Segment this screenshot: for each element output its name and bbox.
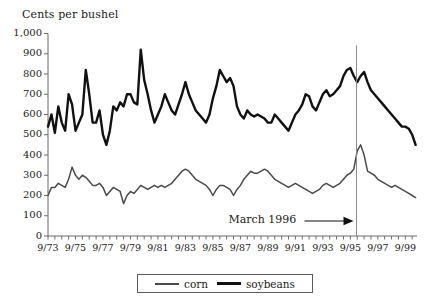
y-tick-label: 0	[36, 230, 42, 241]
y-tick-label: 500	[23, 128, 42, 139]
y-tick-label: 400	[23, 149, 42, 160]
legend-item-corn: corn	[155, 278, 208, 290]
y-tick-label: 100	[23, 209, 42, 220]
y-tick-label: 700	[23, 88, 42, 99]
y-tick-label: 1,000	[13, 27, 42, 38]
y-axis-title: Cents per bushel	[22, 8, 118, 21]
y-tick-label: 300	[23, 169, 42, 180]
price-chart: Cents per bushel 1,000900800700600500400…	[0, 0, 435, 308]
annotation-label-march-1996: March 1996	[229, 213, 297, 226]
legend-label-corn: corn	[184, 278, 208, 290]
chart-legend: corn soybeans	[137, 274, 313, 293]
plot-area	[0, 0, 435, 308]
arrow-right-icon	[344, 217, 354, 225]
series-line-corn	[48, 145, 416, 204]
x-tick-label: 9/99	[380, 242, 430, 253]
y-tick-label: 900	[23, 47, 42, 58]
y-tick-label: 600	[23, 108, 42, 119]
legend-line-corn-icon	[155, 283, 179, 285]
series-line-soybeans	[48, 50, 416, 145]
legend-item-soybeans: soybeans	[217, 278, 295, 290]
y-tick-label: 800	[23, 68, 42, 79]
legend-label-soybeans: soybeans	[246, 278, 295, 290]
y-tick-label: 200	[23, 189, 42, 200]
legend-line-soybeans-icon	[217, 282, 241, 285]
